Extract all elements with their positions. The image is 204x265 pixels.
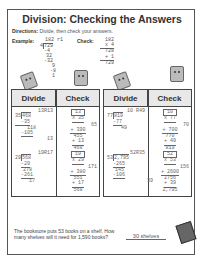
check-cell: 13 x 35 65 + 390 455 + 13 468 bbox=[59, 109, 97, 151]
divide-header: Divide bbox=[104, 90, 148, 107]
step: -105 bbox=[21, 131, 33, 137]
divide-cell: 19R17 29568 -29 278 -261 17 bbox=[15, 151, 53, 185]
directions-text: Divide, then check your answers. bbox=[40, 28, 113, 34]
check-cell: 19 x 29 171 + 380 551 + 17 568 bbox=[59, 151, 97, 193]
divide-cell: 13R13 35468 -35 118 -105 13 bbox=[15, 109, 53, 143]
directions: Directions: Divide, then check your answ… bbox=[12, 28, 113, 34]
cartoon-mascot-icon bbox=[74, 70, 88, 86]
cartoon-mascot-icon bbox=[170, 66, 184, 82]
check-line: 2,795 bbox=[151, 188, 189, 193]
check-line: x 35 bbox=[72, 116, 84, 122]
remainder: 49 bbox=[107, 126, 145, 131]
check-label: Check: bbox=[77, 38, 94, 44]
example-label: Example: bbox=[12, 38, 34, 44]
divide-header: Divide bbox=[12, 90, 56, 107]
check-line: 568 bbox=[59, 188, 97, 193]
remainder: 13 bbox=[15, 137, 53, 142]
problem-table-right: Divide Check 10 R49 77819 -77 49 10 x 77… bbox=[103, 89, 192, 197]
example-division: 182 r1 4729 -4 32 -32 9 -8 1 bbox=[40, 38, 63, 79]
check-line: x 29 bbox=[72, 158, 84, 164]
step: -106 bbox=[113, 173, 125, 179]
check-header: Check bbox=[148, 90, 191, 107]
remainder: 17 bbox=[15, 179, 53, 184]
check-cell: 52 x 53 156 + 2600 2756 + 39 2,795 bbox=[151, 151, 189, 193]
problem-table-left: Divide Check 13R13 35468 -35 118 -105 13… bbox=[11, 89, 100, 197]
check-header: Check bbox=[56, 90, 99, 107]
example-step: 1 bbox=[40, 74, 63, 79]
check-cell: 10 x 77 70 + 700 770 + 49 819 bbox=[151, 109, 189, 151]
example-check: 182 x 4 728 + 1 729 bbox=[100, 38, 114, 66]
column-divider bbox=[56, 90, 57, 196]
page-title: Division: Checking the Answers bbox=[0, 13, 204, 25]
problem-tables: Divide Check 13R13 35468 -35 118 -105 13… bbox=[11, 89, 192, 227]
directions-label: Directions: bbox=[12, 28, 38, 34]
remainder: 39 bbox=[107, 179, 153, 184]
example-check-line: 729 bbox=[100, 60, 114, 66]
check-line: x 77 bbox=[164, 116, 176, 122]
word-problem: The bookstore puts 53 books on a shelf. … bbox=[14, 228, 119, 240]
word-problem-answer: 30 shelves bbox=[126, 233, 166, 240]
divide-cell: 10 R49 77819 -77 49 bbox=[107, 109, 145, 131]
check-line: x 53 bbox=[164, 158, 176, 164]
divide-cell: 52R35 532,795 -265 145 -106 39 bbox=[107, 151, 145, 185]
